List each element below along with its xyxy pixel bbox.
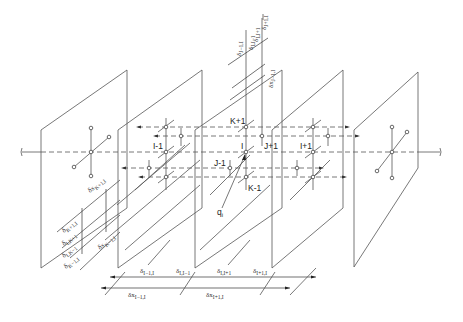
panel-4 bbox=[272, 70, 343, 268]
top-dimensions bbox=[228, 14, 268, 128]
label-delta-im1-i: δI−1,I bbox=[140, 267, 154, 276]
label-delta-jp1-i: δJ+1,I bbox=[260, 15, 269, 30]
label-dx-ip1-i: δxI+1,I bbox=[206, 291, 224, 300]
node-column-i-plus bbox=[295, 118, 330, 190]
right-end-stencil bbox=[375, 125, 409, 180]
label-dx-im1-i: δxI−1,I bbox=[128, 291, 146, 300]
label-dx-km1-i: δxK−1,I bbox=[96, 233, 117, 253]
label-delta-i-ip1: δI,I+1 bbox=[217, 267, 231, 276]
i-axis bbox=[21, 148, 441, 156]
label-j-minus: J-1 bbox=[214, 158, 226, 168]
label-i: I bbox=[241, 141, 243, 151]
grid-diagram: K+1 K-1 J+1 J-1 I I+1 I-1 qi δI−1,I δI,I… bbox=[0, 0, 463, 322]
label-delta-i-kp1: δI,K+1 bbox=[60, 231, 78, 249]
label-j-plus: J+1 bbox=[264, 141, 278, 151]
bottom-dimensions bbox=[101, 240, 316, 295]
label-i-plus: I+1 bbox=[300, 141, 312, 151]
diagram-canvas: K+1 K-1 J+1 J-1 I I+1 I-1 qi δI−1,I δI,I… bbox=[0, 0, 463, 322]
label-delta-i-im1: δI,I−1 bbox=[176, 267, 190, 276]
label-source: qi bbox=[217, 207, 223, 218]
panel-5 bbox=[354, 72, 418, 267]
label-k-plus: K+1 bbox=[230, 116, 246, 126]
label-delta-ip1-i: δI+1,I bbox=[253, 267, 267, 276]
label-dx-jm1-i: δxJ−1,I bbox=[267, 70, 276, 88]
label-k-minus: K-1 bbox=[248, 183, 262, 193]
node-column-i bbox=[228, 118, 264, 190]
label-dx-kp1-i: δxK+1,I bbox=[86, 176, 107, 196]
label-delta-jm1-i: δJ−1,I bbox=[235, 41, 244, 56]
label-i-minus: I-1 bbox=[153, 141, 163, 151]
label-delta-kp1-i: δK+1,I bbox=[60, 218, 78, 236]
